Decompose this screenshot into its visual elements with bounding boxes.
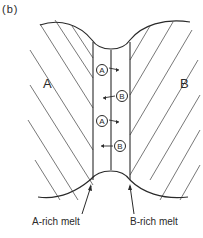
lower-solid-melt-boundary bbox=[38, 171, 188, 198]
callout-arrow-a-rich-melt bbox=[82, 184, 92, 214]
panel-label: (b) bbox=[2, 3, 18, 15]
atom-a-2: A bbox=[97, 116, 120, 127]
a-rich-melt-label: A-rich melt bbox=[32, 216, 80, 227]
atom-b-1: B bbox=[103, 91, 128, 102]
diagram-canvas: A B A B bbox=[0, 0, 203, 238]
svg-text:A: A bbox=[99, 117, 105, 126]
svg-text:A: A bbox=[99, 66, 105, 75]
svg-text:B: B bbox=[117, 142, 122, 151]
phase-b-label: B bbox=[180, 76, 189, 91]
hatching-phase-a bbox=[28, 20, 93, 200]
b-rich-melt-label: B-rich melt bbox=[130, 216, 178, 227]
hatching-phase-b bbox=[130, 22, 200, 200]
atom-a-1: A bbox=[97, 65, 120, 76]
atom-b-2: B bbox=[101, 141, 126, 152]
callout-arrow-b-rich-melt bbox=[128, 184, 134, 214]
svg-text:B: B bbox=[119, 92, 124, 101]
phase-a-label: A bbox=[43, 76, 52, 91]
upper-solid-melt-boundary bbox=[40, 21, 190, 49]
